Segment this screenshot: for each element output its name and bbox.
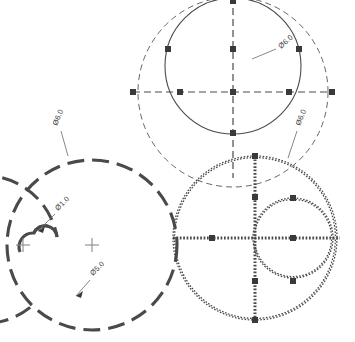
- technical-drawing-canvas: Ø6.0 Ø6.0 Ø6.0 Ø1.0 Ø5.0: [0, 0, 355, 342]
- leader-line: [76, 280, 90, 296]
- dimension-text: Ø5.0: [88, 259, 106, 277]
- dimension-label-right-upper: Ø6.0: [288, 108, 308, 158]
- square-marker: [130, 89, 136, 95]
- square-marker: [230, 89, 236, 95]
- dimension-label-left-upper: Ø6.0: [51, 108, 68, 156]
- dimension-text: Ø1.0: [53, 194, 71, 212]
- square-marker: [230, 46, 236, 52]
- square-marker: [296, 46, 302, 52]
- left-center-crosshair: [85, 238, 99, 252]
- dimension-label-d5: Ø5.0: [76, 259, 106, 298]
- dimension-label-top-right: Ø6.0: [252, 33, 295, 59]
- leader-line: [252, 49, 276, 59]
- square-marker: [209, 235, 215, 241]
- square-marker: [286, 89, 292, 95]
- square-marker: [290, 195, 296, 201]
- square-marker: [165, 46, 171, 52]
- leader-line: [61, 131, 68, 156]
- dimension-text: Ø6.0: [276, 33, 295, 51]
- square-marker: [230, 0, 236, 4]
- square-marker: [252, 317, 258, 323]
- square-marker: [177, 89, 183, 95]
- dimension-text: Ø6.0: [51, 108, 66, 127]
- drawing-svg: Ø6.0 Ø6.0 Ø6.0 Ø1.0 Ø5.0: [0, 0, 355, 342]
- left-small-circle: [19, 226, 57, 252]
- square-marker: [290, 278, 296, 284]
- square-marker: [329, 89, 335, 95]
- square-marker: [252, 153, 258, 159]
- square-marker: [252, 194, 258, 200]
- leader-line: [288, 131, 297, 158]
- lower-left-circle-group: [0, 160, 177, 330]
- lower-right-circle-group: [173, 153, 340, 323]
- square-marker: [230, 130, 236, 136]
- dimension-text: Ø6.0: [294, 108, 309, 127]
- square-marker: [252, 278, 258, 284]
- square-marker: [290, 235, 296, 241]
